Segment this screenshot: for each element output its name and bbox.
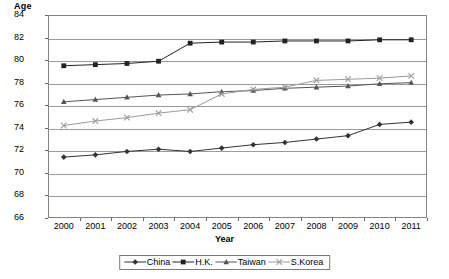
- y-axis-tick-label: 76: [0, 100, 24, 109]
- y-axis-tick-mark: [45, 218, 48, 219]
- y-axis-tick-label: 70: [0, 168, 24, 177]
- data-point-diamond: [187, 149, 193, 155]
- series-line: [64, 122, 411, 157]
- line-chart: Age 66687072747678808284 200020012002200…: [0, 0, 449, 279]
- data-point-cross: [276, 259, 282, 265]
- data-point-square: [125, 61, 130, 66]
- y-axis-tick-label: 78: [0, 78, 24, 87]
- data-point-diamond: [132, 259, 138, 265]
- data-point-diamond: [345, 133, 351, 139]
- series-s-korea: [61, 73, 414, 128]
- series-line: [64, 83, 411, 102]
- y-axis-tick-label: 84: [0, 10, 24, 19]
- legend-marker-square-icon: [172, 257, 194, 267]
- data-point-diamond: [314, 136, 320, 142]
- data-point-diamond: [250, 142, 256, 148]
- data-point-diamond: [377, 122, 383, 128]
- data-point-diamond: [93, 152, 99, 158]
- data-point-square: [346, 39, 351, 44]
- y-axis-tick-label: 68: [0, 190, 24, 199]
- data-point-square: [251, 40, 256, 45]
- data-point-diamond: [408, 119, 414, 125]
- legend-item-label: Taiwan: [237, 257, 268, 267]
- legend-item-label: S.Korea: [290, 257, 326, 267]
- y-axis-tick-label: 74: [0, 123, 24, 132]
- series-layer: [48, 15, 427, 218]
- y-axis-tick-label: 72: [0, 145, 24, 154]
- x-axis-tick-label: 2011: [391, 221, 431, 231]
- legend-item-china[interactable]: China: [124, 257, 173, 267]
- data-point-diamond: [61, 154, 67, 160]
- data-point-diamond: [124, 149, 130, 155]
- data-point-square: [181, 260, 186, 265]
- data-point-square: [282, 39, 287, 44]
- y-axis-tick-label: 82: [0, 33, 24, 42]
- legend: ChinaH.K.TaiwanS.Korea: [119, 255, 331, 270]
- legend-item-s-korea[interactable]: S.Korea: [268, 257, 326, 267]
- series-line: [64, 40, 411, 66]
- data-point-square: [314, 39, 319, 44]
- legend-marker-cross-icon: [268, 257, 290, 267]
- legend-item-label: China: [146, 257, 173, 267]
- x-axis-title: Year: [0, 234, 449, 244]
- y-axis-tick-label: 66: [0, 213, 24, 222]
- series-h-k-: [61, 37, 413, 68]
- legend-marker-triangle-icon: [215, 257, 237, 267]
- x-axis-tick-mark: [427, 218, 428, 221]
- data-point-square: [93, 62, 98, 67]
- series-line: [64, 76, 411, 126]
- legend-marker-diamond-icon: [124, 257, 146, 267]
- data-point-square: [409, 37, 414, 42]
- data-point-diamond: [156, 146, 162, 152]
- data-point-triangle: [223, 259, 229, 264]
- data-point-square: [219, 40, 224, 45]
- data-point-square: [61, 63, 66, 68]
- data-point-square: [156, 59, 161, 64]
- data-point-diamond: [219, 145, 225, 151]
- data-point-diamond: [282, 140, 288, 146]
- legend-item-label: H.K.: [194, 257, 215, 267]
- data-point-square: [377, 37, 382, 42]
- legend-item-taiwan[interactable]: Taiwan: [215, 257, 268, 267]
- series-china: [61, 119, 414, 160]
- legend-item-h-k-[interactable]: H.K.: [172, 257, 215, 267]
- y-axis-tick-label: 80: [0, 55, 24, 64]
- data-point-square: [188, 41, 193, 46]
